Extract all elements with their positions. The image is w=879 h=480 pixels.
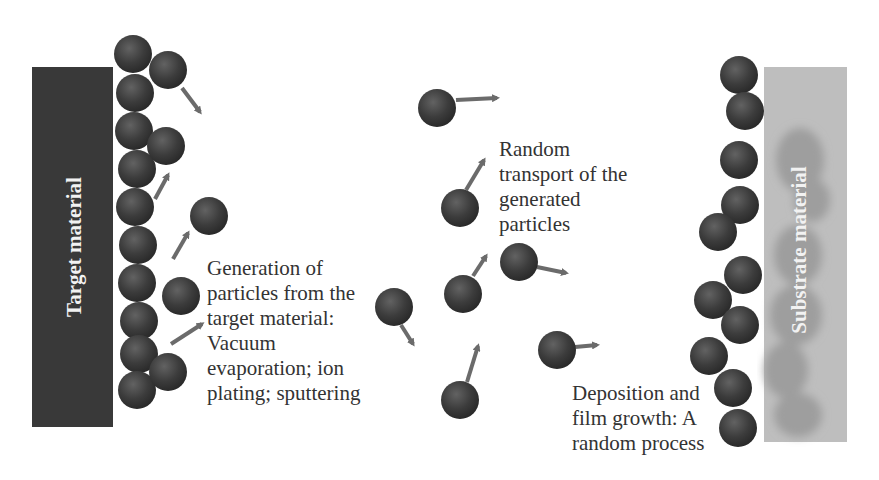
deposition-diagram: Target material Substrate material Gener…	[0, 0, 879, 480]
particle-icon	[190, 197, 228, 235]
particle-icon	[114, 35, 152, 73]
particle-icon	[720, 141, 758, 179]
target-material-label: Target material	[62, 177, 86, 317]
particle-icon	[441, 381, 479, 419]
particle-icon	[120, 302, 158, 340]
particle-icon	[147, 127, 185, 165]
particle-icon	[538, 331, 576, 369]
transport-label: Random transport of the generated partic…	[499, 137, 627, 237]
particle-icon	[726, 92, 764, 130]
substrate-material-label: Substrate material	[787, 166, 811, 334]
substrate-material-bar: Substrate material	[764, 67, 847, 442]
particle-icon	[690, 337, 728, 375]
deposition-label: Deposition and film growth: A random pro…	[572, 381, 704, 456]
particle-icon	[149, 353, 187, 391]
arrow-icon	[182, 88, 200, 112]
arrow-icon	[467, 346, 478, 382]
particle-icon	[500, 243, 538, 281]
particle-icon	[724, 256, 762, 294]
particle-icon	[418, 89, 456, 127]
arrow-icon	[537, 267, 566, 273]
arrow-icon	[473, 256, 486, 276]
particle-icon	[719, 409, 757, 447]
target-material-bar: Target material	[32, 67, 113, 427]
particle-icon	[149, 51, 187, 89]
particle-icon	[441, 189, 479, 227]
generation-label: Generation of particles from the target …	[207, 256, 360, 406]
arrow-icon	[173, 233, 188, 259]
particle-icon	[720, 56, 758, 94]
particle-icon	[162, 277, 200, 315]
arrow-icon	[155, 175, 168, 199]
particle-icon	[119, 226, 157, 264]
arrow-icon	[401, 325, 413, 344]
particle-icon	[721, 306, 759, 344]
particle-icon	[444, 275, 482, 313]
arrow-icon	[466, 160, 484, 190]
particle-icon	[118, 264, 156, 302]
arrow-icon	[171, 324, 202, 344]
particle-icon	[375, 288, 413, 326]
diagram-canvas: Target material Substrate material	[0, 0, 879, 480]
particle-icon	[116, 74, 154, 112]
arrow-icon	[456, 98, 497, 100]
particle-icon	[714, 369, 752, 407]
particle-icon	[699, 213, 737, 251]
particle-icon	[116, 188, 154, 226]
arrow-icon	[575, 345, 597, 347]
